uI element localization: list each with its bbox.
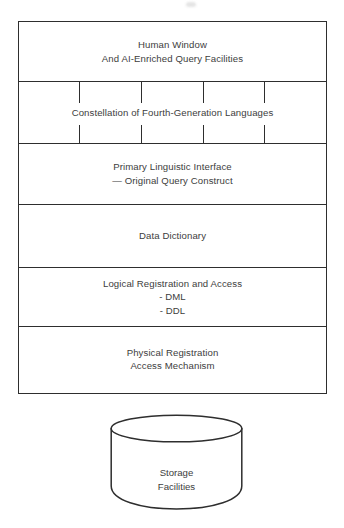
layer-stack: Human Window And AI-Enriched Query Facil… (18, 21, 327, 394)
layer-physical-registration-label: Physical Registration Access Mechanism (121, 346, 225, 373)
layer-primary-linguistic-interface: Primary Linguistic Interface — Original … (19, 143, 326, 204)
storage-cylinder: Storage Facilities (110, 414, 243, 510)
layer-human-window: Human Window And AI-Enriched Query Facil… (19, 22, 326, 81)
constellation-tick-top-2 (141, 82, 142, 103)
scan-artifact (186, 2, 196, 7)
constellation-tick-top-4 (264, 82, 265, 103)
constellation-tick-bottom-1 (79, 125, 80, 143)
constellation-tick-bottom-4 (264, 125, 265, 143)
layer-logical-registration-and-access: Logical Registration and Access - DML - … (19, 267, 326, 326)
layer-logical-registration-and-access-label: Logical Registration and Access - DML - … (97, 277, 248, 318)
layer-physical-registration: Physical Registration Access Mechanism (19, 326, 326, 392)
storage-cylinder-label: Storage Facilities (110, 466, 243, 493)
layer-constellation: Constellation of Fourth-Generation Langu… (19, 81, 326, 142)
constellation-tick-bottom-2 (141, 125, 142, 143)
constellation-tick-bottom-3 (203, 125, 204, 143)
architecture-diagram: Human Window And AI-Enriched Query Facil… (0, 0, 344, 528)
constellation-tick-top-1 (79, 82, 80, 103)
layer-data-dictionary-label: Data Dictionary (133, 229, 212, 243)
layer-primary-linguistic-interface-label: Primary Linguistic Interface — Original … (106, 160, 238, 187)
layer-constellation-label: Constellation of Fourth-Generation Langu… (66, 106, 280, 120)
layer-data-dictionary: Data Dictionary (19, 204, 326, 267)
constellation-tick-top-3 (203, 82, 204, 103)
layer-human-window-label: Human Window And AI-Enriched Query Facil… (96, 38, 249, 65)
database-cylinder-icon (110, 414, 243, 510)
